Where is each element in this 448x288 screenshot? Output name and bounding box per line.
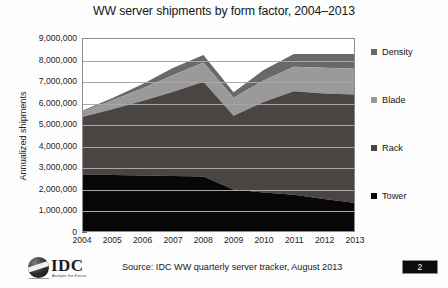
x-tick-label: 2013 [338,235,372,245]
plot-area [82,38,355,232]
gridline [83,147,354,148]
y-tick-label: 5,000,000 [11,119,77,129]
legend-label: Density [382,47,413,57]
y-tick-label: 6,000,000 [11,98,77,108]
legend-label: Blade [382,95,406,105]
y-tick-label: 8,000,000 [11,55,77,65]
legend-item-tower: Tower [371,191,407,201]
x-tick-label: 2007 [156,235,190,245]
x-tick-label: 2004 [65,235,99,245]
gridline [83,168,354,169]
gridline [83,61,354,62]
logo-divider [29,278,49,279]
legend-label: Rack [382,143,403,153]
x-tick-label: 2010 [247,235,281,245]
x-axis-tick-labels: 2004200520062007200820092010201120122013 [82,235,355,249]
x-tick-label: 2005 [95,235,129,245]
x-tick-label: 2006 [126,235,160,245]
y-tick-label: 7,000,000 [11,76,77,86]
y-tick-label: 1,000,000 [11,205,77,215]
gridline [83,104,354,105]
y-tick-mark [82,232,87,233]
legend-item-density: Density [371,47,413,57]
y-axis-tick-labels: 01,000,0002,000,0003,000,0004,000,0005,0… [7,38,77,232]
x-tick-label: 2009 [217,235,251,245]
gridline [83,190,354,191]
page-title: WW server shipments by form factor, 2004… [0,4,448,18]
source-note: Source: IDC WW quarterly server tracker,… [122,262,342,272]
x-tick-label: 2011 [277,235,311,245]
idc-logo: IDC Analyze the Future [28,256,116,282]
page-number-badge: 2 [402,260,438,274]
legend-item-rack: Rack [371,143,403,153]
legend-swatch-icon [371,193,377,199]
legend-label: Tower [382,191,407,201]
y-tick-label: 9,000,000 [11,33,77,43]
stacked-area-series [83,39,354,231]
idc-tagline: Analyze the Future [52,273,86,278]
x-tick-label: 2008 [186,235,220,245]
legend-swatch-icon [371,145,377,151]
y-tick-label: 3,000,000 [11,162,77,172]
gridline [83,82,354,83]
idc-globe-icon [28,257,49,278]
gridline [83,211,354,212]
legend-item-blade: Blade [371,95,406,105]
legend-swatch-icon [371,49,377,55]
slide-canvas: WW server shipments by form factor, 2004… [0,0,448,288]
y-tick-label: 4,000,000 [11,141,77,151]
legend-swatch-icon [371,97,377,103]
gridline [83,125,354,126]
y-tick-label: 2,000,000 [11,184,77,194]
x-tick-label: 2012 [308,235,342,245]
